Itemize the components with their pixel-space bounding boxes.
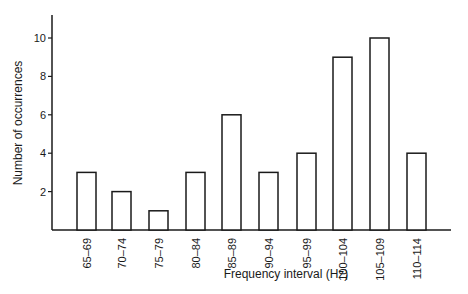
bar: [149, 211, 168, 230]
bar: [333, 57, 352, 230]
bar: [112, 192, 131, 230]
bar: [407, 153, 426, 230]
y-tick-label: 8: [40, 70, 46, 82]
x-axis-label: Frequency interval (Hz): [224, 267, 349, 281]
axes: [48, 15, 451, 230]
x-tick-label: 85–89: [226, 238, 238, 269]
y-tick-label: 4: [40, 147, 46, 159]
x-tick-label: 90–94: [263, 238, 275, 269]
bar-chart: 65–6970–7475–7980–8485–8990–9495–99100–1…: [0, 0, 468, 294]
y-tick-labels: 246810: [34, 32, 46, 198]
bar: [259, 172, 278, 230]
x-tick-label: 65–69: [81, 238, 93, 269]
y-tick-label: 6: [40, 109, 46, 121]
bars: [77, 38, 426, 230]
bar: [222, 115, 241, 230]
x-tick-label: 70–74: [116, 238, 128, 269]
bar: [186, 172, 205, 230]
x-tick-label: 105–109: [374, 238, 386, 281]
y-tick-label: 10: [34, 32, 46, 44]
x-tick-label: 80–84: [190, 238, 202, 269]
x-tick-label: 75–79: [153, 238, 165, 269]
y-axis-label: Number of occurrences: [11, 61, 25, 186]
x-tick-label: 110–114: [411, 238, 423, 279]
bar: [297, 153, 316, 230]
x-tick-label: 95–99: [301, 238, 313, 269]
y-tick-label: 2: [40, 186, 46, 198]
bar: [370, 38, 389, 230]
bar: [77, 172, 96, 230]
